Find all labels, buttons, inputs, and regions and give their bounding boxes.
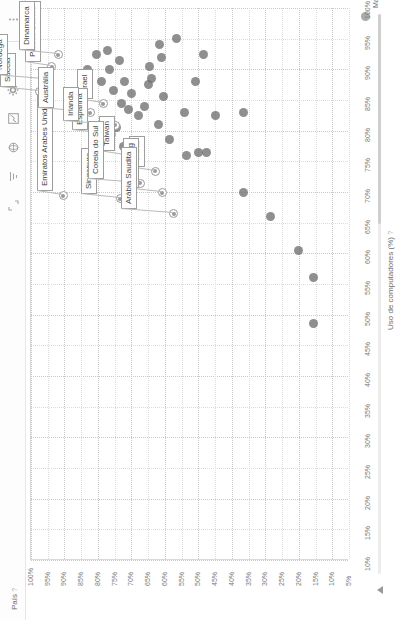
scatter-point[interactable]	[120, 77, 129, 86]
scatter-point[interactable]	[109, 86, 118, 95]
scatter-point[interactable]	[155, 40, 164, 49]
scatter-point[interactable]	[124, 105, 133, 114]
gridline-vertical	[215, 8, 216, 559]
point-label[interactable]: Coreia do Sul	[88, 120, 104, 178]
point-label[interactable]: Emiratos Arabes Unidos	[37, 95, 53, 191]
x-axis-tick-label: 100%	[364, 1, 371, 19]
scatter-point[interactable]	[202, 148, 211, 157]
globe-icon[interactable]	[3, 138, 23, 158]
gridline-horizontal	[31, 315, 348, 316]
scatter-point[interactable]	[147, 74, 156, 83]
y-axis-tick-label: 35%	[245, 572, 252, 586]
scatter-point[interactable]	[134, 111, 143, 120]
x-axis-tick-label: 30%	[364, 434, 371, 448]
point-label[interactable]: Arábia Saudita	[121, 147, 137, 209]
scatter-point[interactable]	[199, 50, 208, 59]
scatter-point[interactable]	[157, 53, 166, 62]
expand-icon[interactable]	[3, 196, 23, 216]
x-axis-tick-label: 25%	[364, 465, 371, 479]
point-label[interactable]: Irlanda	[63, 86, 79, 120]
y-axis-help-icon[interactable]: ?	[11, 588, 18, 592]
gridline-vertical	[249, 8, 250, 559]
x-axis-title: Uso de computadores (%) ?	[386, 231, 395, 330]
scatter-point[interactable]	[191, 77, 200, 86]
scatter-point-labeled[interactable]	[99, 99, 108, 108]
scatter-point[interactable]	[180, 108, 189, 117]
vertical-scrollbar[interactable]	[378, 14, 381, 574]
scatter-point-labeled[interactable]	[59, 191, 68, 200]
y-axis-tick-label: 20%	[295, 572, 302, 586]
y-axis-tick-label: 10%	[328, 572, 335, 586]
gridline-vertical	[316, 8, 317, 559]
gridline-horizontal	[31, 437, 348, 438]
gridline-vertical	[148, 8, 149, 559]
x-axis-tick-label: 95%	[364, 36, 371, 50]
y-axis-tick-label: 45%	[211, 572, 218, 586]
scatter-point[interactable]	[172, 34, 181, 43]
scatter-point[interactable]	[239, 108, 248, 117]
filter-icon[interactable]	[3, 167, 23, 187]
x-axis-tick-label: 15%	[364, 526, 371, 540]
scatter-point[interactable]	[127, 89, 136, 98]
gridline-vertical	[349, 8, 350, 559]
gridline-horizontal	[31, 161, 348, 162]
scatter-point-labeled[interactable]	[169, 209, 178, 218]
gridline-vertical	[332, 8, 333, 559]
scatter-point[interactable]	[140, 102, 149, 111]
gridline-horizontal	[31, 8, 348, 9]
scroll-up-arrow-icon[interactable]	[373, 583, 386, 596]
scatter-point[interactable]	[266, 212, 275, 221]
x-axis-tick-label: 10%	[364, 557, 371, 571]
gridline-vertical	[182, 8, 183, 559]
x-axis-tick-label: 40%	[364, 373, 371, 387]
gridline-vertical	[198, 8, 199, 559]
scatter-point[interactable]	[309, 273, 318, 282]
scatter-point-labeled[interactable]	[158, 188, 167, 197]
scrollbar-thumb[interactable]	[378, 14, 381, 224]
scatter-point[interactable]	[97, 77, 106, 86]
point-label[interactable]: Dinamarca	[19, 1, 35, 50]
scatter-point[interactable]	[182, 151, 191, 160]
gridline-horizontal	[31, 223, 348, 224]
gridline-vertical	[31, 8, 32, 559]
scatter-point[interactable]	[294, 246, 303, 255]
x-axis-help-icon[interactable]: ?	[387, 231, 394, 235]
chart-icon[interactable]	[3, 109, 23, 129]
x-axis-tick-label: 45%	[364, 342, 371, 356]
point-label[interactable]: Noruega	[0, 34, 8, 75]
scatter-point-labeled[interactable]	[151, 167, 160, 176]
y-axis-tick-label: 95%	[44, 572, 51, 586]
scatter-point[interactable]	[239, 188, 248, 197]
y-axis-tick-label: 75%	[111, 572, 118, 586]
gridline-horizontal	[31, 499, 348, 500]
gridline-horizontal	[31, 284, 348, 285]
x-axis-title-text: Uso de computadores (%)	[386, 237, 395, 330]
gridline-vertical	[282, 8, 283, 559]
x-axis-tick-label: 50%	[364, 312, 371, 326]
x-axis-tick-label: 20%	[364, 496, 371, 510]
scatter-point[interactable]	[105, 65, 114, 74]
y-axis-tick-label: 55%	[178, 572, 185, 586]
point-label[interactable]: Austrália	[38, 67, 54, 108]
y-axis-tick-label: 25%	[278, 572, 285, 586]
scatter-point[interactable]	[92, 50, 101, 59]
x-axis-tick-label: 70%	[364, 189, 371, 203]
scatter-point[interactable]	[115, 56, 124, 65]
scatter-point[interactable]	[154, 120, 163, 129]
y-axis-tick-label: 90%	[60, 572, 67, 586]
scatter-point[interactable]	[103, 46, 112, 55]
y-axis-tick-label: 65%	[144, 572, 151, 586]
x-axis-tick-label: 55%	[364, 281, 371, 295]
scatter-point-labeled[interactable]	[54, 50, 63, 59]
gridline-horizontal	[31, 131, 348, 132]
gridline-vertical	[265, 8, 266, 559]
y-axis-tick-label: 80%	[94, 572, 101, 586]
y-axis-tick-label: 85%	[77, 572, 84, 586]
scatter-point[interactable]	[211, 111, 220, 120]
scatter-plot-area[interactable]: Emiratos Arabes UnidosSuéciaNoruegaPaíse…	[30, 8, 348, 560]
scatter-point[interactable]	[309, 319, 318, 328]
app-toolbar	[0, 0, 26, 620]
scatter-point[interactable]	[165, 135, 174, 144]
gridline-horizontal	[31, 407, 348, 408]
gridline-vertical	[165, 8, 166, 559]
